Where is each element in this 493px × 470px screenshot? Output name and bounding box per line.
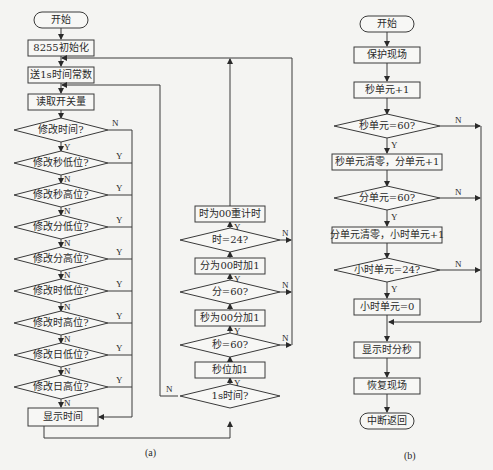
yes-label: Y bbox=[64, 142, 71, 152]
no-label: N bbox=[455, 259, 462, 269]
yes-label: Y bbox=[234, 378, 241, 388]
no-label: N bbox=[282, 333, 289, 343]
caption-a: (a) bbox=[145, 447, 156, 458]
hour-check-decision: 时=24? bbox=[212, 234, 248, 246]
decision-min-high: 修改分高位? bbox=[33, 253, 88, 265]
send-constant-box: 送1s时间常数 bbox=[30, 69, 92, 81]
no-label: N bbox=[166, 384, 173, 394]
start-terminal-a: 开始 bbox=[51, 14, 71, 26]
no-label: N bbox=[64, 270, 71, 280]
no-label: N bbox=[64, 238, 71, 248]
hour-reset-box: 时为00重计时 bbox=[199, 208, 262, 220]
yes-label: Y bbox=[116, 279, 123, 289]
yes-label: Y bbox=[116, 151, 123, 161]
no-label: N bbox=[282, 228, 289, 238]
display-time-box: 显示时间 bbox=[43, 411, 83, 423]
no-label: N bbox=[64, 398, 71, 408]
hour-unit-check-decision: 小时单元=24? bbox=[354, 264, 420, 276]
decision-sec-high: 修改秒高位? bbox=[33, 189, 88, 201]
decision-day-low: 修改日低位? bbox=[33, 349, 88, 361]
restore-context-box: 恢复现场 bbox=[367, 380, 407, 392]
no-label: N bbox=[455, 115, 462, 125]
no-label: N bbox=[282, 280, 289, 290]
decision-min-low: 修改分低位? bbox=[33, 221, 88, 233]
sec-inc-box: 秒位加1 bbox=[212, 364, 248, 376]
interrupt-return-terminal: 中断返回 bbox=[367, 415, 407, 427]
decision-modify-time: 修改时间? bbox=[38, 124, 83, 136]
yes-label: Y bbox=[116, 247, 123, 257]
sec-unit-check-decision: 秒单元=60? bbox=[359, 120, 415, 132]
save-context-box: 保护现场 bbox=[367, 49, 407, 61]
yes-label: Y bbox=[116, 311, 123, 321]
decision-day-high: 修改日高位? bbox=[33, 381, 88, 393]
yes-label: Y bbox=[234, 274, 241, 284]
min-clear-box: 分单元清零，小时单元+1 bbox=[330, 229, 445, 241]
one-sec-check-decision: 1s时间? bbox=[212, 390, 249, 402]
yes-label: Y bbox=[116, 375, 123, 385]
yes-label: Y bbox=[234, 326, 241, 336]
no-label: N bbox=[64, 366, 71, 376]
caption-b: (b) bbox=[404, 450, 416, 461]
min-check-decision: 分=60? bbox=[212, 286, 248, 298]
yes-label: Y bbox=[116, 215, 123, 225]
min-unit-check-decision: 分单元=60? bbox=[359, 192, 415, 204]
no-label: N bbox=[64, 174, 71, 184]
decision-hour-high: 修改时高位? bbox=[33, 317, 88, 329]
decision-hour-low: 修改时低位? bbox=[33, 285, 88, 297]
min-reset-box: 分为00时加1 bbox=[200, 260, 259, 272]
sec-clear-box: 秒单元清零，分单元+1 bbox=[335, 156, 440, 168]
no-label: N bbox=[64, 302, 71, 312]
decision-sec-low: 修改秒低位? bbox=[33, 157, 88, 169]
yes-label: Y bbox=[234, 222, 241, 232]
start-terminal-b: 开始 bbox=[377, 18, 397, 30]
yes-label: Y bbox=[391, 212, 398, 222]
no-label: N bbox=[64, 334, 71, 344]
no-label: N bbox=[112, 118, 119, 128]
no-label: N bbox=[64, 206, 71, 216]
yes-label: Y bbox=[116, 343, 123, 353]
init-8255-box: 8255初始化 bbox=[33, 42, 88, 54]
no-label: N bbox=[455, 187, 462, 197]
yes-label: Y bbox=[116, 183, 123, 193]
yes-label: Y bbox=[391, 284, 398, 294]
sec-unit-inc-box: 秒单元+1 bbox=[365, 84, 410, 96]
sec-reset-box: 秒为00分加1 bbox=[200, 312, 259, 324]
sec-check-decision: 秒=60? bbox=[212, 339, 248, 351]
display-hms-box: 显示时分秒 bbox=[362, 344, 412, 356]
hour-clear-box: 小时单元=0 bbox=[360, 301, 415, 313]
read-switch-box: 读取开关量 bbox=[36, 96, 86, 108]
yes-label: Y bbox=[391, 140, 398, 150]
